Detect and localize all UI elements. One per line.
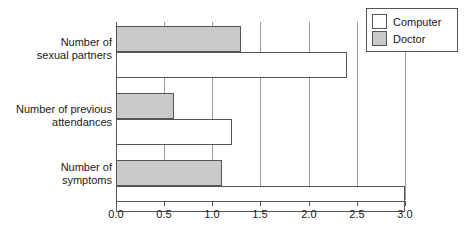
tick-label-5: 2.5 xyxy=(337,208,377,220)
category-label-sexual-partners: Number of sexual partners xyxy=(0,36,112,62)
tick-label-4: 2.0 xyxy=(289,208,329,220)
bar-doctor-sexual-partners xyxy=(116,26,241,52)
tick-label-2: 1.0 xyxy=(192,208,232,220)
tick-label-3: 1.5 xyxy=(240,208,280,220)
tick-mark-3 xyxy=(260,201,261,206)
legend-label-doctor: Doctor xyxy=(393,33,425,45)
legend-item-doctor: Doctor xyxy=(372,30,453,47)
tick-mark-6 xyxy=(405,201,406,206)
tick-mark-4 xyxy=(309,201,310,206)
bar-doctor-previous-attendances xyxy=(116,93,174,119)
bar-computer-sexual-partners xyxy=(116,52,347,78)
tick-mark-0 xyxy=(116,201,117,206)
bar-chart: Number of sexual partners Number of prev… xyxy=(0,0,466,246)
category-label-symptoms: Number of symptoms xyxy=(0,161,112,187)
legend-swatch-computer-icon xyxy=(372,14,387,29)
legend-item-computer: Computer xyxy=(372,13,453,30)
tick-mark-2 xyxy=(212,201,213,206)
tick-mark-5 xyxy=(357,201,358,206)
x-axis-baseline xyxy=(116,201,406,202)
category-label-previous-attendances: Number of previous attendances xyxy=(0,103,112,129)
bar-doctor-symptoms xyxy=(116,160,222,186)
tick-mark-1 xyxy=(164,201,165,206)
tick-label-0: 0.0 xyxy=(96,208,136,220)
tick-label-1: 0.5 xyxy=(144,208,184,220)
legend-swatch-doctor-icon xyxy=(372,31,387,46)
gridline-2.0 xyxy=(309,22,310,200)
gridline-2.5 xyxy=(357,22,358,200)
plot-area xyxy=(116,22,405,200)
chart-legend: Computer Doctor xyxy=(366,8,458,52)
tick-label-6: 3.0 xyxy=(385,208,425,220)
legend-label-computer: Computer xyxy=(393,16,441,28)
bar-computer-previous-attendances xyxy=(116,119,232,145)
gridline-1.5 xyxy=(260,22,261,200)
